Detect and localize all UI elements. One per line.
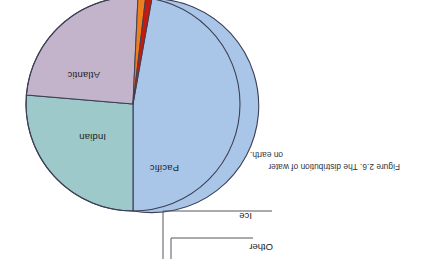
pie-slice-indian [26, 0, 138, 104]
figure-root: Pacific Atlantic Indian Ice Other Figure… [0, 0, 424, 269]
leader-line-ice [171, 238, 253, 259]
pie-slice-atlantic [26, 95, 133, 211]
figure-caption-line-2: on earth. [250, 149, 400, 161]
pie-label-indian: Indian [79, 132, 106, 143]
pie-label-pacific: Pacific [150, 163, 179, 174]
pie-label-ice: Ice [239, 211, 252, 222]
pie-chart-svg [25, 0, 241, 212]
figure-caption-line-1: Figure 2.6. The distribution of water [250, 161, 400, 173]
figure-caption: Figure 2.6. The distribution of water on… [250, 149, 400, 173]
pie-label-other: Other [249, 242, 273, 253]
pie-label-atlantic: Atlantic [67, 70, 100, 81]
pie-chart [25, 0, 241, 212]
